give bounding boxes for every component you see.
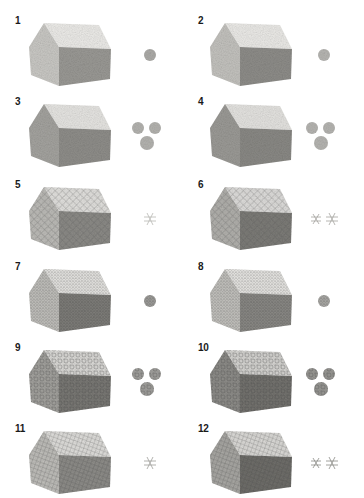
tone-swatch-icon <box>306 122 318 134</box>
house-drawing <box>208 427 294 497</box>
stroke-swatches <box>128 27 178 77</box>
house-figure-7: 7 <box>0 263 182 344</box>
house-drawing <box>27 19 113 89</box>
stroke-swatches <box>302 191 352 241</box>
house-figure-8: 8 <box>182 263 364 344</box>
hatch-swatch-icon <box>144 213 156 225</box>
tone-swatch-icon <box>132 122 144 134</box>
house-drawing <box>27 346 113 416</box>
figure-number: 10 <box>198 342 209 353</box>
house-wall <box>240 47 292 86</box>
figure-number: 7 <box>15 261 20 272</box>
figure-number: 3 <box>15 96 20 107</box>
house-drawing <box>208 265 294 335</box>
hatch-swatch-icon <box>311 458 321 468</box>
house-figure-6: 6 <box>182 181 364 262</box>
tone-swatch-icon <box>323 122 335 134</box>
tone-swatch-icon <box>318 49 330 61</box>
tone-swatch-icon <box>314 136 328 150</box>
stroke-swatches <box>302 273 352 323</box>
house-figure-10: 10 <box>182 344 364 425</box>
house-drawing <box>27 183 113 253</box>
stroke-swatches <box>128 273 178 323</box>
house-figure-11: 11 <box>0 425 182 498</box>
house-drawing <box>208 346 294 416</box>
stroke-swatches <box>302 108 352 158</box>
house-figure-12: 12 <box>182 425 364 498</box>
figure-number: 6 <box>198 179 203 190</box>
stroke-swatches <box>128 191 178 241</box>
house-wall <box>59 128 111 167</box>
stroke-swatches <box>128 354 178 404</box>
house-figure-5: 5 <box>0 181 182 262</box>
hatch-swatch-icon <box>144 457 156 469</box>
stroke-swatches <box>128 435 178 485</box>
tone-swatch-icon <box>149 122 161 134</box>
figure-number: 9 <box>15 342 20 353</box>
house-drawing <box>27 100 113 170</box>
house-drawing <box>27 265 113 335</box>
house-figure-1: 1 <box>0 17 182 98</box>
house-drawing <box>27 427 113 497</box>
house-drawing <box>208 100 294 170</box>
stroke-swatches <box>302 435 352 485</box>
house-wall <box>240 128 292 167</box>
house-wall <box>59 47 111 86</box>
tone-swatch-icon <box>140 136 154 150</box>
house-figure-4: 4 <box>182 98 364 179</box>
house-figure-2: 2 <box>182 17 364 98</box>
tone-swatch-icon <box>144 49 156 61</box>
figure-number: 8 <box>198 261 203 272</box>
house-figure-9: 9 <box>0 344 182 425</box>
hatch-swatch-icon <box>326 213 338 225</box>
house-drawing <box>208 19 294 89</box>
figure-number: 12 <box>198 423 209 434</box>
stroke-swatches <box>302 27 352 77</box>
house-figure-3: 3 <box>0 98 182 179</box>
hatch-swatch-icon <box>311 214 321 224</box>
stroke-swatches <box>128 108 178 158</box>
figure-number: 1 <box>15 15 20 26</box>
figure-number: 2 <box>198 15 203 26</box>
figure-number: 4 <box>198 96 203 107</box>
figure-number: 11 <box>15 423 25 434</box>
house-drawing <box>208 183 294 253</box>
hatch-swatch-icon <box>326 457 338 469</box>
figure-number: 5 <box>15 179 20 190</box>
stroke-swatches <box>302 354 352 404</box>
